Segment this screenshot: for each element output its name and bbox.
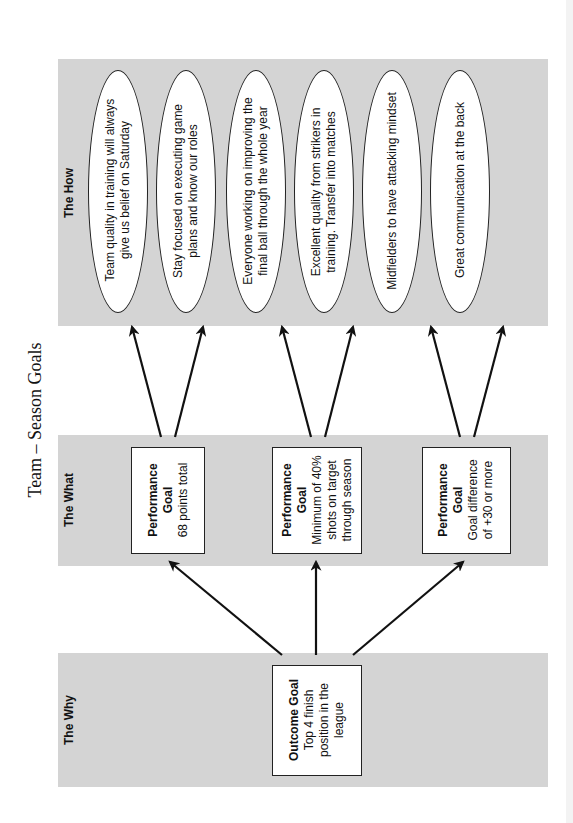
arrow-what2-how3 bbox=[282, 327, 311, 437]
arrow-what3-how5 bbox=[431, 327, 460, 437]
arrow-what3-how6 bbox=[474, 327, 503, 437]
arrow-what1-how1 bbox=[132, 327, 161, 437]
arrow-why-what3 bbox=[353, 562, 463, 655]
arrow-what1-how2 bbox=[175, 327, 203, 437]
arrow-what2-how4 bbox=[325, 327, 353, 437]
connector-arrows bbox=[0, 0, 573, 823]
arrow-why-what1 bbox=[170, 562, 282, 655]
